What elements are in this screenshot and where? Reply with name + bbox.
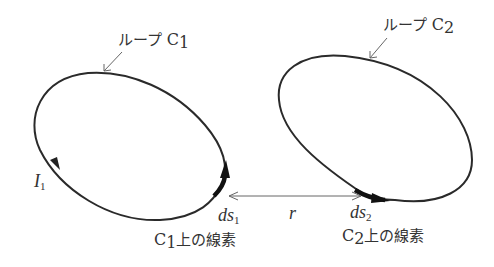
distance-r-label: r bbox=[289, 204, 296, 222]
c1-caption-sub: 1 bbox=[166, 233, 176, 252]
c2-caption-main: C bbox=[342, 226, 354, 245]
loop-c2-pointer-line bbox=[370, 38, 387, 58]
c2-caption-sub: 2 bbox=[354, 229, 364, 248]
ds1-label: ds1 bbox=[218, 206, 240, 226]
ds2-main: ds bbox=[350, 202, 366, 222]
c1-element-caption: C1上の線素 bbox=[154, 232, 236, 251]
loop-c1-label-main: C bbox=[167, 30, 179, 49]
loop-c1-label-prefix: ループ bbox=[118, 31, 167, 49]
loop-c1-label: ループ C1 bbox=[118, 32, 189, 51]
loop-c1-curve bbox=[34, 73, 225, 220]
ds1-element-segment bbox=[214, 176, 225, 196]
ds2-arrowhead-icon bbox=[371, 193, 390, 203]
loop-c2-label-prefix: ループ bbox=[383, 16, 432, 34]
loop-c1-pointer-line bbox=[104, 52, 122, 71]
c1-caption-suffix: 上の線素 bbox=[176, 231, 236, 249]
loop-c2-label-main: C bbox=[432, 15, 444, 34]
c1-caption-main: C bbox=[154, 230, 166, 249]
ds2-label: ds2 bbox=[350, 203, 372, 223]
loop-c2-curve bbox=[279, 55, 472, 201]
c2-caption-suffix: 上の線素 bbox=[364, 227, 424, 245]
ds1-sub: 1 bbox=[234, 214, 240, 226]
loop-c1-label-sub: 1 bbox=[179, 33, 189, 52]
ds2-sub: 2 bbox=[366, 211, 372, 223]
c2-element-caption: C2上の線素 bbox=[342, 228, 424, 247]
current-i1-sub: 1 bbox=[40, 180, 46, 192]
loop-c2-label: ループ C2 bbox=[383, 17, 454, 36]
distance-r-text: r bbox=[289, 203, 296, 223]
ds1-main: ds bbox=[218, 205, 234, 225]
current-i1-label: I1 bbox=[34, 172, 46, 192]
loop-c2-label-sub: 2 bbox=[444, 18, 454, 37]
